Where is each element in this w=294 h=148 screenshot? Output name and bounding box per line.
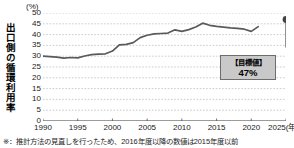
y-axis-tick-label: 5 bbox=[25, 106, 41, 114]
x-axis-tick-label: 1990 bbox=[34, 123, 52, 132]
x-axis-tick-label: 2005 bbox=[138, 123, 156, 132]
y-axis-tick-labels: 50454035302520151050 bbox=[22, 13, 41, 121]
data-series-line bbox=[43, 23, 258, 58]
y-axis-tick-label: 35 bbox=[25, 41, 41, 49]
target-callout-value: 47% bbox=[238, 67, 257, 78]
y-axis-tick-label: 20 bbox=[25, 74, 41, 82]
y-axis-tick-label: 25 bbox=[25, 63, 41, 71]
y-axis-title: 出口側の循環利用率 bbox=[2, 18, 17, 118]
x-axis-tick-label: 2015 bbox=[208, 123, 226, 132]
x-axis-tick-label: 2025(年度) bbox=[268, 123, 294, 132]
y-axis-tick-label: 10 bbox=[25, 95, 41, 103]
y-axis-tick-label: 50 bbox=[25, 9, 41, 17]
x-axis-tick-label: 2000 bbox=[104, 123, 122, 132]
target-point-marker bbox=[283, 16, 286, 23]
y-axis-tick-label: 15 bbox=[25, 85, 41, 93]
y-axis-tick-label: 30 bbox=[25, 52, 41, 60]
x-axis-tick-label: 2020 bbox=[242, 123, 260, 132]
target-value-callout: 【目標値】 47% bbox=[220, 55, 276, 80]
chart-figure: 出口側の循環利用率 (%) 50454035302520151050 19901… bbox=[0, 0, 294, 148]
x-axis-tick-label: 2010 bbox=[173, 123, 191, 132]
x-axis-tick-label: 1995 bbox=[69, 123, 87, 132]
y-axis-tick-label: 45 bbox=[25, 20, 41, 28]
target-callout-title: 【目標値】 bbox=[231, 58, 266, 67]
y-axis-tick-label: 40 bbox=[25, 31, 41, 39]
x-axis-tick-labels: 19901995200020052010201520202025(年度) bbox=[43, 123, 294, 135]
chart-footnote: ※：推計方法の見直しを行ったため、2016年度以降の数値は2015年度以前 bbox=[3, 137, 294, 146]
